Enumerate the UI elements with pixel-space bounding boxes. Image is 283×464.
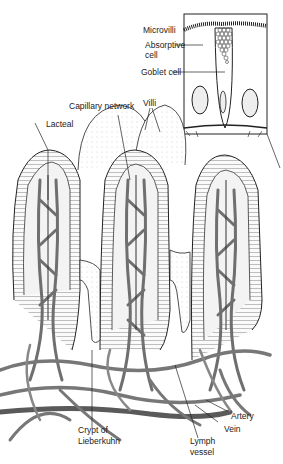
label-lymph-vessel-line1: Lymph xyxy=(190,436,215,446)
inset-magnified-cells xyxy=(184,14,267,137)
label-microvilli: Microvilli xyxy=(143,25,176,35)
villus-right xyxy=(192,155,263,360)
label-villi: Villi xyxy=(143,98,156,108)
label-vein: Vein xyxy=(224,424,241,434)
label-lymph-vessel-line2: vessel xyxy=(190,447,214,457)
label-crypt-line1: Crypt of xyxy=(78,425,108,435)
villus-middle xyxy=(100,150,170,350)
label-crypt-line2: Lieberkuhn xyxy=(78,436,120,446)
label-absorptive-cell-line2: cell xyxy=(145,50,158,60)
label-absorptive-cell-line1: Absorptive xyxy=(145,40,185,50)
label-artery: Artery xyxy=(231,411,254,421)
villus-left xyxy=(13,150,80,350)
label-lacteal: Lacteal xyxy=(46,119,73,129)
label-capillary-network: Capillary network xyxy=(69,101,134,111)
label-goblet-cell: Goblet cell xyxy=(141,67,181,77)
